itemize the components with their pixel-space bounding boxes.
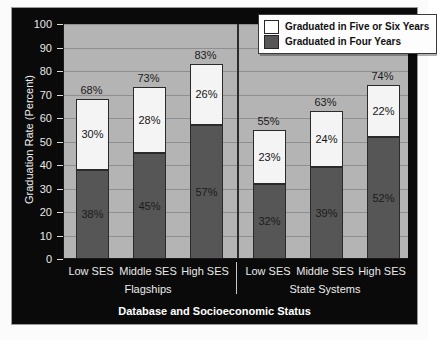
- bar-stack[interactable]: 26%57%: [190, 64, 223, 259]
- bar-segment-label: 30%: [81, 129, 103, 140]
- gridline: [64, 212, 408, 213]
- bar-segment-five-or-six-years[interactable]: 26%: [190, 64, 223, 125]
- group-separator-lower: [236, 262, 237, 294]
- bar-total-label: 55%: [244, 116, 293, 127]
- y-axis-tick-mark: [57, 259, 63, 260]
- bar-segment-label: 38%: [81, 209, 103, 220]
- bar-segment-four-years[interactable]: 32%: [253, 184, 286, 259]
- y-axis-tick-label: 60: [10, 113, 52, 124]
- y-axis-tick-label: 70: [10, 90, 52, 101]
- y-axis-tick-label: 0: [10, 254, 52, 265]
- legend-swatch-five-or-six-years: [264, 20, 279, 34]
- plot-area: 30%38%28%45%26%57%23%32%24%39%22%52%: [63, 24, 408, 259]
- y-axis-tick-label: 30: [10, 184, 52, 195]
- x-axis-title: Database and Socioeconomic Status: [12, 305, 417, 317]
- legend-item-five-or-six-years: Graduated in Five or Six Years: [264, 19, 429, 34]
- y-axis-tick-label: 10: [10, 231, 52, 242]
- bar-segment-five-or-six-years[interactable]: 22%: [367, 85, 400, 137]
- bar-stack[interactable]: 23%32%: [253, 130, 286, 259]
- y-axis-tick-label: 40: [10, 160, 52, 171]
- bar-segment-four-years[interactable]: 39%: [310, 167, 343, 259]
- bar-segment-label: 57%: [195, 187, 217, 198]
- legend-label-four-years: Graduated in Four Years: [285, 36, 401, 47]
- bar-segment-five-or-six-years[interactable]: 28%: [133, 87, 166, 153]
- y-axis-tick-label: 100: [10, 19, 52, 30]
- bar-segment-five-or-six-years[interactable]: 24%: [310, 111, 343, 167]
- gridline: [64, 165, 408, 166]
- bar-total-label: 73%: [124, 73, 173, 84]
- legend-label-five-or-six-years: Graduated in Five or Six Years: [285, 21, 429, 32]
- bar-stack[interactable]: 30%38%: [76, 99, 109, 259]
- legend: Graduated in Five or Six Years Graduated…: [258, 14, 437, 54]
- gridline: [64, 236, 408, 237]
- bar-segment-four-years[interactable]: 45%: [133, 153, 166, 259]
- bar-segment-four-years[interactable]: 57%: [190, 125, 223, 259]
- x-axis-group-label: Flagships: [88, 283, 208, 295]
- gridline: [64, 118, 408, 119]
- y-axis-tick-label: 50: [10, 137, 52, 148]
- bar-segment-four-years[interactable]: 52%: [367, 137, 400, 259]
- y-axis-tick-label: 90: [10, 43, 52, 54]
- bar-segment-label: 28%: [138, 115, 160, 126]
- chart-panel: Graduation Rate (Percent) 10090807060504…: [11, 7, 418, 325]
- bar-segment-five-or-six-years[interactable]: 23%: [253, 130, 286, 184]
- bar-stack[interactable]: 22%52%: [367, 85, 400, 259]
- bar-total-label: 63%: [301, 97, 350, 108]
- y-axis-tick-label: 80: [10, 66, 52, 77]
- bar-segment-label: 39%: [315, 208, 337, 219]
- x-axis-group-label: State Systems: [265, 283, 385, 295]
- bar-stack[interactable]: 24%39%: [310, 111, 343, 259]
- legend-item-four-years: Graduated in Four Years: [264, 34, 429, 49]
- gridline: [64, 189, 408, 190]
- bar-segment-label: 32%: [258, 216, 280, 227]
- gridline: [64, 142, 408, 143]
- gridline: [64, 71, 408, 72]
- bar-segment-label: 23%: [258, 152, 280, 163]
- bar-stack[interactable]: 28%45%: [133, 87, 166, 259]
- x-axis-tick-label: High SES: [342, 265, 422, 277]
- y-axis-tick-label: 20: [10, 207, 52, 218]
- bar-total-label: 83%: [181, 50, 230, 61]
- group-separator-line: [237, 24, 239, 258]
- bar-segment-four-years[interactable]: 38%: [76, 170, 109, 259]
- bar-total-label: 68%: [67, 85, 116, 96]
- bar-segment-label: 26%: [195, 89, 217, 100]
- bar-segment-label: 24%: [315, 134, 337, 145]
- bar-segment-label: 45%: [138, 201, 160, 212]
- bar-total-label: 74%: [358, 71, 407, 82]
- bar-segment-label: 22%: [372, 106, 394, 117]
- legend-swatch-four-years: [264, 35, 279, 49]
- bar-segment-label: 52%: [372, 193, 394, 204]
- bar-segment-five-or-six-years[interactable]: 30%: [76, 99, 109, 170]
